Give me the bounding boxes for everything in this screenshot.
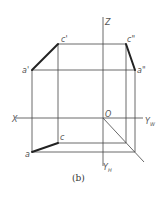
yw-axis-label: YW (145, 117, 156, 127)
yw-yh-diagonal (103, 118, 144, 162)
figure-caption: (b) (72, 173, 85, 183)
c-double-prime-label: c" (127, 35, 135, 44)
yh-axis-label: YH (103, 163, 112, 173)
a-prime-label: a' (22, 66, 29, 75)
c-prime-label: c' (61, 35, 68, 44)
ac-frontal-projection (32, 44, 58, 70)
projection-diagram: Z X O YW YH c' a' c" a" c a (b) (0, 0, 163, 197)
ac-side-projection (126, 44, 135, 70)
a-double-prime-label: a" (137, 66, 146, 75)
a-label: a (25, 150, 30, 159)
x-axis-label: X (11, 115, 18, 124)
origin-label: O (105, 110, 111, 119)
z-axis-label: Z (104, 18, 111, 27)
c-label: c (60, 133, 65, 142)
ac-top-projection (32, 143, 58, 152)
